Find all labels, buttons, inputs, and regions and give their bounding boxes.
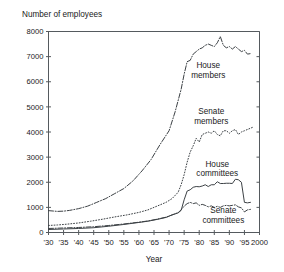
y-tick-label: 8000 bbox=[27, 27, 44, 36]
employees-line-chart: Number of employees 01000200030004000500… bbox=[0, 0, 284, 272]
x-tick-label: '50 bbox=[104, 238, 114, 247]
series-label-senate-members: Senatemembers bbox=[194, 107, 228, 126]
y-tick-label: 1000 bbox=[27, 203, 44, 212]
y-tick-label: 4000 bbox=[27, 128, 44, 137]
x-tick-label: 2000 bbox=[251, 238, 268, 247]
x-tick-label: '45 bbox=[89, 238, 99, 247]
x-tick-label: '60 bbox=[134, 238, 144, 247]
y-tick-label: 5000 bbox=[27, 103, 44, 112]
x-axis-title: Year bbox=[146, 255, 163, 264]
x-tick-label: '35 bbox=[59, 238, 69, 247]
y-tick-label: 6000 bbox=[27, 77, 44, 86]
x-tick-label: '85 bbox=[209, 238, 219, 247]
x-tick-label: '75 bbox=[179, 238, 189, 247]
y-tick-label: 7000 bbox=[27, 52, 44, 61]
y-tick-label: 3000 bbox=[27, 153, 44, 162]
x-tick-label: '40 bbox=[74, 238, 84, 247]
x-tick-label: '30 bbox=[44, 238, 54, 247]
x-tick-label: '90 bbox=[224, 238, 234, 247]
x-tick-label: '95 bbox=[239, 238, 249, 247]
x-tick-label: '55 bbox=[119, 238, 129, 247]
x-tick-label: '80 bbox=[194, 238, 204, 247]
chart-title: Number of employees bbox=[22, 10, 102, 19]
x-tick-label: '65 bbox=[149, 238, 159, 247]
x-tick-label: '70 bbox=[164, 238, 174, 247]
y-tick-label: 2000 bbox=[27, 178, 44, 187]
y-tick-label: 0 bbox=[39, 228, 43, 237]
